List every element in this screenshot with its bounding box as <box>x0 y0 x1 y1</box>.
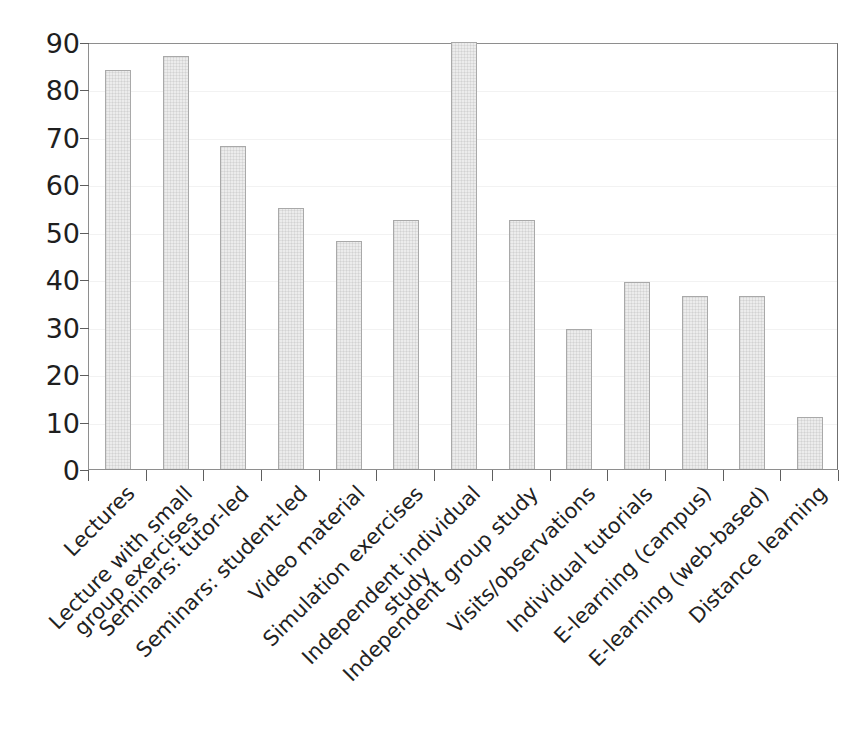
bar <box>278 208 304 469</box>
bar <box>624 282 650 469</box>
x-axis-label: Seminars: tutor-led <box>95 482 253 640</box>
x-axis-tick-mark <box>146 470 147 481</box>
bar <box>566 329 592 469</box>
x-axis-label: Video material <box>245 482 369 606</box>
y-axis-tick-mark <box>80 328 89 329</box>
y-axis-tick-label: 90 <box>20 30 80 57</box>
y-axis-tick-mark <box>80 90 89 91</box>
y-axis-tick-mark <box>80 43 89 44</box>
y-axis-tick-mark <box>80 185 89 186</box>
x-axis-tick-mark <box>492 470 493 481</box>
y-axis-tick-label: 30 <box>20 314 80 341</box>
x-axis-label: Independent group study <box>339 482 543 686</box>
bar-chart-figure: 9080706050403020100 LecturesLecture with… <box>0 0 866 729</box>
y-axis-tick-label: 20 <box>20 362 80 389</box>
y-axis-tick-mark <box>80 138 89 139</box>
bar <box>220 146 246 469</box>
x-axis-label: Individual tutorials <box>503 482 657 636</box>
y-axis: 9080706050403020100 <box>8 0 80 729</box>
x-axis-label: Visits/observations <box>444 482 600 638</box>
x-axis-tick-mark <box>607 470 608 481</box>
plot-area <box>88 43 838 470</box>
x-axis-tick-mark <box>376 470 377 481</box>
x-axis-label: Distance learning <box>685 482 831 628</box>
y-axis-tick-mark <box>80 280 89 281</box>
bar <box>393 220 419 469</box>
x-axis-tick-mark <box>88 470 89 481</box>
x-axis-tick-mark <box>261 470 262 481</box>
y-axis-tick-label: 80 <box>20 77 80 104</box>
x-axis-tick-mark <box>434 470 435 481</box>
x-axis-tick-mark <box>665 470 666 481</box>
y-axis-tick-mark <box>80 375 89 376</box>
y-axis-tick-label: 0 <box>20 457 80 484</box>
y-axis-tick-mark <box>80 233 89 234</box>
y-axis-tick-label: 50 <box>20 219 80 246</box>
x-axis-tick-mark <box>203 470 204 481</box>
bar <box>739 296 765 469</box>
bar <box>336 241 362 469</box>
bar <box>105 70 131 469</box>
y-axis-tick-mark <box>80 423 89 424</box>
x-axis-label: Simulation exercises <box>259 482 428 651</box>
x-axis-label: E-learning (web-based) <box>585 482 773 670</box>
x-axis-tick-mark <box>319 470 320 481</box>
x-axis-label: Seminars: student-led <box>132 482 312 662</box>
bar <box>797 417 823 469</box>
y-axis-tick-label: 10 <box>20 409 80 436</box>
y-axis-tick-label: 40 <box>20 267 80 294</box>
bar <box>682 296 708 469</box>
x-axis-tick-mark <box>838 470 839 481</box>
bar <box>451 42 477 469</box>
x-axis-tick-mark <box>550 470 551 481</box>
bar <box>509 220 535 469</box>
x-axis-label: E-learning (campus) <box>550 482 716 648</box>
y-axis-tick-label: 60 <box>20 172 80 199</box>
x-axis-label: Independent individual study <box>298 482 500 684</box>
y-axis-tick-label: 70 <box>20 124 80 151</box>
bar <box>163 56 189 469</box>
x-axis-tick-mark <box>780 470 781 481</box>
x-axis-tick-mark <box>723 470 724 481</box>
